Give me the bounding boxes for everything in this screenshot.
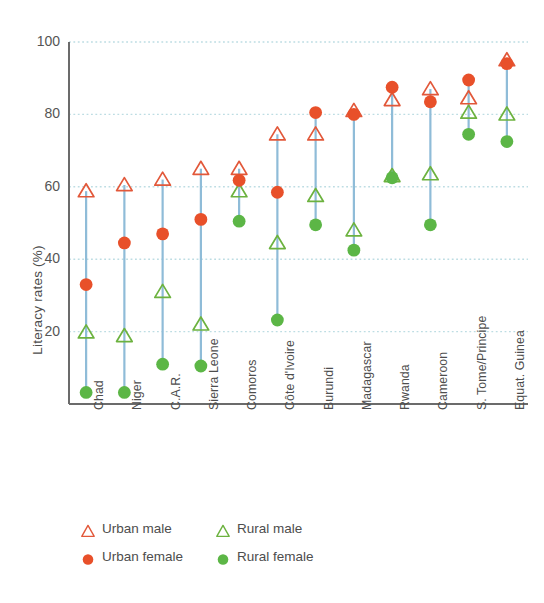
marker-urban-female xyxy=(347,108,360,121)
x-tick-cameroon: Cameroon xyxy=(436,352,450,410)
x-tick-rwanda: Rwanda xyxy=(398,364,412,410)
marker-rural-female xyxy=(347,244,360,257)
marker-urban-female xyxy=(118,237,131,250)
x-tick-c-a-r: C.A.R. xyxy=(169,373,183,410)
x-tick-equat-guinea: Equat. Guinea xyxy=(513,330,527,410)
legend-label: Rural female xyxy=(237,549,314,564)
circle-glyph xyxy=(83,554,94,565)
marker-rural-female xyxy=(233,215,246,228)
marker-rural-female xyxy=(386,171,399,184)
x-tick-burundi: Burundi xyxy=(322,367,336,410)
x-tick-comoros: Comoros xyxy=(245,359,259,410)
marker-urban-female xyxy=(424,95,437,108)
marker-urban-female xyxy=(386,81,399,94)
legend-label: Rural male xyxy=(237,521,302,536)
marker-urban-female xyxy=(233,174,246,187)
y-tick-40: 40 xyxy=(26,250,60,266)
marker-urban-female xyxy=(80,278,93,291)
marker-rural-female xyxy=(194,360,207,373)
circle-glyph xyxy=(218,554,229,565)
marker-urban-female xyxy=(156,227,169,240)
x-tick-niger: Niger xyxy=(130,380,144,410)
marker-rural-female xyxy=(156,358,169,371)
y-tick-80: 80 xyxy=(26,105,60,121)
marker-rural-female xyxy=(309,218,322,231)
triangle-glyph xyxy=(217,525,229,536)
x-tick-s-tome-principe: S. Tome/Principe xyxy=(475,316,489,410)
x-tick-c-te-d-ivoire: Côte d'Ivoire xyxy=(283,340,297,410)
marker-urban-female xyxy=(462,74,475,87)
y-tick-100: 100 xyxy=(26,33,60,49)
x-tick-sierra-leone: Sierra Leone xyxy=(207,338,221,410)
marker-rural-female xyxy=(118,386,131,399)
circle-marker-icon xyxy=(215,551,231,567)
y-tick-60: 60 xyxy=(26,178,60,194)
marker-urban-female xyxy=(271,186,284,199)
marker-rural-female xyxy=(271,314,284,327)
triangle-marker-icon xyxy=(215,523,231,539)
marker-rural-female xyxy=(424,218,437,231)
literacy-rates-chart: Literacy rates (%) 20406080100 ChadNiger… xyxy=(0,0,544,603)
marker-urban-female xyxy=(500,57,513,70)
x-tick-madagascar: Madagascar xyxy=(360,341,374,410)
y-tick-20: 20 xyxy=(26,323,60,339)
legend-label: Urban female xyxy=(102,549,183,564)
triangle-marker-icon xyxy=(80,523,96,539)
marker-urban-female xyxy=(309,106,322,119)
triangle-glyph xyxy=(82,525,94,536)
marker-rural-female xyxy=(80,386,93,399)
plot-area xyxy=(0,0,544,603)
marker-rural-female xyxy=(462,128,475,141)
x-tick-chad: Chad xyxy=(92,380,106,410)
marker-rural-female xyxy=(500,135,513,148)
circle-marker-icon xyxy=(80,551,96,567)
legend-label: Urban male xyxy=(102,521,172,536)
marker-urban-female xyxy=(194,213,207,226)
